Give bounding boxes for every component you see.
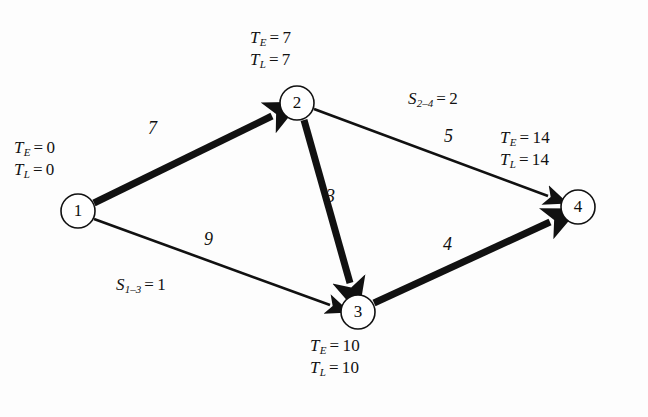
te-symbol-node-4: T	[500, 128, 510, 147]
te-subscript-node-4: E	[510, 136, 517, 148]
time-block-node-2: TE=7 TL=7	[250, 26, 291, 70]
time-block-node-4: TE=14 TL=14	[500, 126, 550, 170]
edge-weight-2-3: 3	[326, 186, 335, 207]
te-row-node-1: TE=0	[14, 136, 55, 158]
slack-subscript-2-4: 2–4	[417, 97, 434, 109]
te-equals-node-4: =	[517, 128, 533, 147]
te-equals-node-2: =	[267, 28, 283, 47]
tl-symbol-node-1: T	[14, 160, 24, 179]
te-row-node-3: TE=10	[310, 334, 360, 356]
slack-subscript-1-3: 1–3	[125, 283, 142, 295]
edge-weight-2-4: 5	[444, 126, 453, 147]
te-value-node-2: 7	[282, 28, 291, 47]
te-equals-node-1: =	[31, 138, 47, 157]
te-subscript-node-2: E	[260, 36, 267, 48]
slack-label-1-3: S1–3=1	[116, 273, 166, 298]
te-row-node-4: TE=14	[500, 126, 550, 148]
slack-value-1-3: 1	[157, 275, 166, 294]
edge-weight-1-3: 9	[204, 229, 213, 250]
slack-label-2-4: S2–4=2	[408, 87, 458, 112]
tl-row-node-2: TL=7	[250, 48, 291, 70]
tl-subscript-node-3: L	[320, 366, 326, 378]
tl-subscript-node-4: L	[510, 158, 516, 170]
slack-equals-2-4: =	[433, 89, 449, 108]
te-symbol-node-1: T	[14, 138, 24, 157]
pert-network-figure: 1 2 3 4 TE=0 TL=0 TE=7 TL=7 TE=10 TL=10 …	[0, 0, 648, 417]
tl-equals-node-2: =	[266, 50, 282, 69]
tl-symbol-node-3: T	[310, 358, 320, 377]
time-block-node-3: TE=10 TL=10	[310, 334, 360, 378]
tl-equals-node-3: =	[326, 358, 342, 377]
tl-row-node-3: TL=10	[310, 356, 360, 378]
node-label-3: 3	[340, 302, 376, 322]
te-symbol-node-3: T	[310, 336, 320, 355]
te-equals-node-3: =	[327, 336, 343, 355]
tl-symbol-node-2: T	[250, 50, 260, 69]
tl-value-node-3: 10	[342, 358, 360, 377]
tl-row-node-1: TL=0	[14, 158, 55, 180]
edge-3-4	[374, 222, 550, 303]
edge-weight-3-4: 4	[443, 234, 452, 255]
node-label-4: 4	[560, 197, 596, 217]
node-label-2: 2	[279, 93, 315, 113]
node-label-1: 1	[60, 201, 96, 221]
slack-value-2-4: 2	[449, 89, 458, 108]
te-symbol-node-2: T	[250, 28, 260, 47]
te-value-node-4: 14	[532, 128, 550, 147]
edge-1-2	[94, 116, 272, 203]
tl-value-node-1: 0	[46, 160, 55, 179]
tl-subscript-node-2: L	[260, 58, 266, 70]
tl-value-node-4: 14	[532, 150, 550, 169]
edge-weight-1-2: 7	[148, 118, 157, 139]
te-value-node-1: 0	[46, 138, 55, 157]
te-row-node-2: TE=7	[250, 26, 291, 48]
tl-equals-node-1: =	[30, 160, 46, 179]
tl-row-node-4: TL=14	[500, 148, 550, 170]
time-block-node-1: TE=0 TL=0	[14, 136, 55, 180]
te-subscript-node-1: E	[24, 146, 31, 158]
tl-subscript-node-1: L	[24, 168, 30, 180]
te-subscript-node-3: E	[320, 344, 327, 356]
te-value-node-3: 10	[342, 336, 360, 355]
tl-symbol-node-4: T	[500, 150, 510, 169]
slack-symbol-1-3: S	[116, 275, 125, 294]
tl-equals-node-4: =	[516, 150, 532, 169]
slack-equals-1-3: =	[141, 275, 157, 294]
tl-value-node-2: 7	[282, 50, 291, 69]
slack-symbol-2-4: S	[408, 89, 417, 108]
